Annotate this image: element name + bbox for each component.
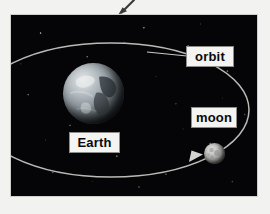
label-orbit: orbit <box>186 46 234 67</box>
diagram-page: orbit moon Earth <box>0 0 270 214</box>
label-earth: Earth <box>69 132 120 153</box>
earth-sphere <box>63 63 124 124</box>
label-earth-text: Earth <box>77 136 111 149</box>
label-moon: moon <box>191 107 237 128</box>
earth-landmass-shapes <box>63 63 124 124</box>
annotation-arrow-icon <box>112 0 140 15</box>
moon-crater-shapes <box>204 143 225 164</box>
earth-moon-orbit-diagram: orbit moon Earth <box>10 14 258 197</box>
orbit-path-graphic <box>11 15 257 196</box>
earth-continents <box>63 63 124 124</box>
moon-craters <box>204 143 225 164</box>
label-moon-text: moon <box>196 111 232 124</box>
label-orbit-text: orbit <box>195 50 225 63</box>
moon-sphere <box>204 143 225 164</box>
